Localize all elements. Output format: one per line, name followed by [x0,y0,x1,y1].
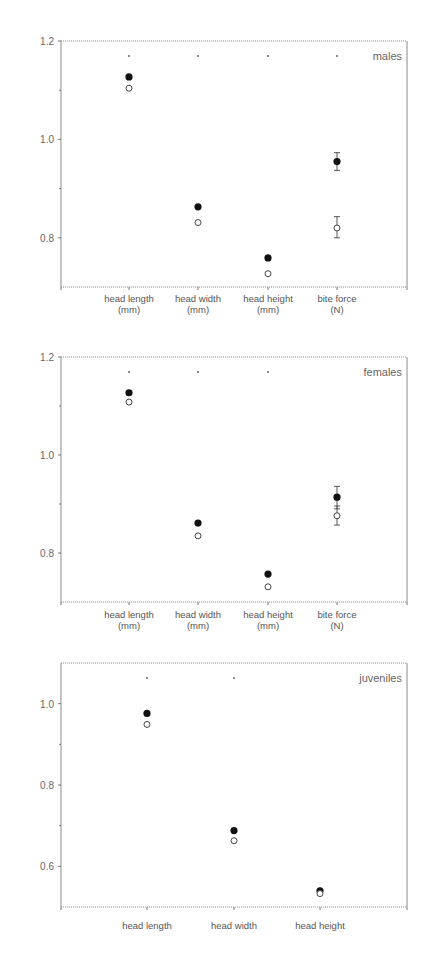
open-circle-marker [334,513,340,519]
x-category-label: (N) [330,304,343,315]
filled-circle-marker [194,520,201,527]
open-circle-marker [231,838,237,844]
x-category-label: bite force [317,293,356,304]
x-category-label: (mm) [118,620,140,631]
filled-circle-marker [333,158,340,165]
x-category-label: (mm) [257,620,279,631]
x-category-label: head width [175,609,221,620]
significance-marker [267,55,269,57]
significance-marker [146,677,148,679]
x-category-label: head width [175,293,221,304]
x-category-label: head height [295,920,345,931]
open-circle-marker [144,721,150,727]
filled-circle-marker [264,254,271,261]
x-category-label: (mm) [187,304,209,315]
significance-marker [128,55,130,57]
x-category-label: head width [211,920,257,931]
open-circle-marker [126,85,132,91]
x-category-label: (N) [330,620,343,631]
panel-label: females [363,366,402,378]
significance-marker [233,677,235,679]
filled-circle-marker [230,827,237,834]
significance-marker [128,371,130,373]
x-category-label: head height [243,609,293,620]
y-tick-label: 1.0 [40,450,54,461]
x-category-label: (mm) [257,304,279,315]
y-tick-label: 0.8 [40,780,54,791]
x-category-label: head length [122,920,172,931]
males-panel: 1.21.00.8maleshead length(mm)head width(… [40,36,407,315]
panel-label: juveniles [358,672,402,684]
open-circle-marker [317,891,323,897]
filled-circle-marker [143,710,150,717]
y-tick-label: 0.8 [40,233,54,244]
y-tick-label: 1.2 [40,352,54,363]
open-circle-marker [195,533,201,539]
y-tick-label: 1.2 [40,36,54,47]
figure-svg: 1.21.00.8maleshead length(mm)head width(… [0,0,431,963]
y-tick-label: 1.0 [40,134,54,145]
y-tick-label: 1.0 [40,699,54,710]
x-category-label: head length [104,609,154,620]
panel-label: males [373,50,403,62]
filled-circle-marker [333,494,340,501]
juveniles-panel: 1.00.80.6juvenileshead lengthhead widthh… [40,663,407,931]
x-category-label: (mm) [118,304,140,315]
filled-circle-marker [125,73,132,80]
significance-marker [267,371,269,373]
open-circle-marker [265,271,271,277]
significance-marker [197,55,199,57]
filled-circle-marker [125,389,132,396]
x-category-label: head length [104,293,154,304]
open-circle-marker [265,584,271,590]
open-circle-marker [195,220,201,226]
open-circle-marker [334,225,340,231]
significance-marker [197,371,199,373]
x-category-label: (mm) [187,620,209,631]
y-tick-label: 0.8 [40,548,54,559]
y-tick-label: 0.6 [40,861,54,872]
females-panel: 1.21.00.8femaleshead length(mm)head widt… [40,352,407,631]
filled-circle-marker [194,203,201,210]
significance-marker [336,55,338,57]
filled-circle-marker [264,570,271,577]
open-circle-marker [126,399,132,405]
x-category-label: bite force [317,609,356,620]
x-category-label: head height [243,293,293,304]
